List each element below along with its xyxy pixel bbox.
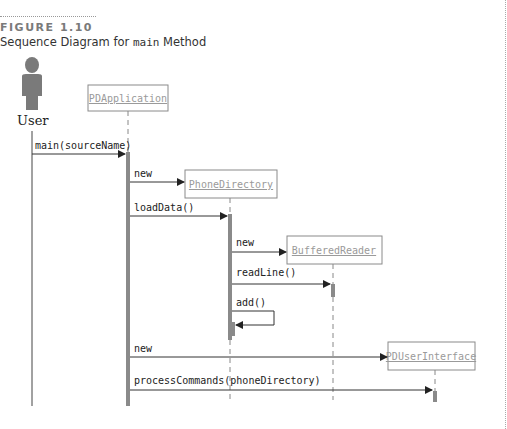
object-phonedirectory: PhoneDirectory bbox=[185, 170, 277, 400]
sequence-diagram: User PDApplication PhoneDirectory Buffer… bbox=[0, 0, 507, 429]
message-label: processCommands(phoneDirectory) bbox=[134, 375, 321, 386]
message-add: add() bbox=[232, 297, 274, 325]
actor-name: User bbox=[17, 113, 49, 128]
person-icon bbox=[22, 57, 42, 110]
message-label: add() bbox=[236, 297, 266, 308]
message-label: new bbox=[134, 168, 153, 179]
object-name: PDApplication bbox=[89, 93, 167, 104]
message-loaddata: loadData() bbox=[130, 202, 227, 216]
message-new-phonedirectory: new bbox=[130, 168, 184, 182]
object-name: PhoneDirectory bbox=[189, 179, 273, 190]
object-name: BufferedReader bbox=[292, 245, 376, 256]
message-readline: readLine() bbox=[232, 267, 330, 284]
actor-user: User bbox=[17, 57, 49, 406]
activation-bar bbox=[433, 391, 437, 402]
nested-activation-bar bbox=[232, 322, 235, 336]
message-main: main(sourceName) bbox=[32, 140, 131, 154]
message-label: readLine() bbox=[236, 267, 296, 278]
message-new-pduserinterface: new bbox=[130, 343, 387, 357]
message-new-bufferedreader: new bbox=[232, 237, 286, 252]
object-pduserinterface: PDUserInterface bbox=[386, 342, 476, 402]
activation-bar bbox=[126, 152, 130, 406]
message-label: loadData() bbox=[134, 202, 194, 213]
message-label: new bbox=[134, 343, 153, 354]
message-label: new bbox=[236, 237, 255, 248]
activation-bar bbox=[228, 214, 232, 340]
object-name: PDUserInterface bbox=[386, 351, 476, 362]
self-message-arrow bbox=[232, 311, 274, 325]
activation-bar bbox=[331, 284, 335, 297]
message-processcommands: processCommands(phoneDirectory) bbox=[130, 375, 432, 390]
object-pdapplication: PDApplication bbox=[88, 85, 168, 406]
message-label: main(sourceName) bbox=[35, 140, 131, 151]
